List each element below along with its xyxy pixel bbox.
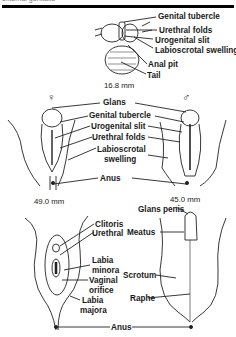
measurement-stage1: 16.8 mm <box>104 81 134 90</box>
label-scrotum: Scrotum <box>123 271 156 280</box>
label-urethral-folds-1: Urethral folds <box>159 26 212 35</box>
label-vaginal: Vaginal <box>89 276 118 285</box>
label-urethral: Urethral <box>92 229 123 238</box>
label-glans: Glans <box>103 98 126 107</box>
label-anus-3: Anus <box>111 323 131 332</box>
male-symbol: ♂ <box>182 92 190 103</box>
label-genital-tubercle-1: Genital tubercle <box>158 12 220 21</box>
label-swelling: swelling <box>104 155 136 164</box>
label-labia-minora-2: minora <box>92 266 119 275</box>
label-genital-tubercle-2: Genital tubercle <box>89 111 151 120</box>
label-labia-majora-1: Labia <box>82 296 103 305</box>
label-urethral-folds-2: Urethral folds <box>92 133 145 142</box>
label-meatus: Meatus <box>127 228 155 237</box>
label-labia-majora-2: majora <box>80 306 107 315</box>
measurement-female: 49.0 mm <box>34 197 64 206</box>
measurement-male: 45.0 mm <box>170 195 200 204</box>
label-anus-2: Anus <box>100 174 120 183</box>
label-tail: Tail <box>147 71 161 80</box>
label-labia-minora-1: Labia <box>92 256 113 265</box>
label-clitoris: Clitoris <box>95 220 123 229</box>
label-glans-penis: Glans penis <box>138 205 184 214</box>
label-anal-pit: Anal pit <box>148 60 178 69</box>
label-raphe: Raphe <box>130 294 155 303</box>
label-labioscrotal-swelling-1: Labioscrotal swelling <box>155 46 236 55</box>
label-urogenital-slit-1: Urogenital slit <box>155 36 210 45</box>
label-labioscrotal: Labioscrotal <box>97 145 146 154</box>
label-orifice: orifice <box>89 286 114 295</box>
female-symbol: ♀ <box>47 92 55 103</box>
label-urogenital-slit-2: Urogenital slit <box>91 122 146 131</box>
